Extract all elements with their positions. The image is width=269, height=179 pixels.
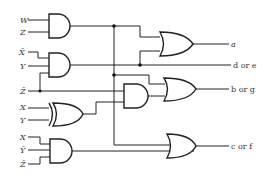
- input-wires: [28, 20, 124, 164]
- input-label-y2: Y: [20, 116, 26, 125]
- input-label-w: W: [20, 16, 29, 25]
- and-gate-2: [49, 53, 70, 77]
- or-gate-a: [160, 32, 193, 56]
- input-label-xbar: X̄: [18, 48, 25, 57]
- xor-gate: [49, 103, 83, 126]
- input-label-z: Z: [19, 28, 26, 37]
- input-label-zbar: Z̄: [19, 87, 26, 96]
- and-gate-3: [124, 84, 148, 108]
- input-label-ybar: Ȳ: [20, 146, 26, 155]
- or-gate-c-or-f: [167, 134, 196, 158]
- input-label-zbar2: Z̄: [19, 160, 26, 169]
- output-label-a: a: [231, 40, 236, 49]
- junction-dot: [112, 24, 116, 28]
- output-label-c-or-f: c or f: [231, 142, 253, 151]
- junction-dot: [138, 63, 142, 67]
- input-label-x: X: [19, 103, 26, 112]
- input-label-x2: X: [19, 133, 26, 142]
- input-label-y: Y: [20, 62, 26, 71]
- junction-dot: [38, 89, 41, 92]
- and-gate-1: [49, 14, 70, 38]
- output-label-d-or-e: d or e: [233, 61, 257, 70]
- junction-dot: [112, 73, 116, 77]
- output-label-b-or-g: b or g: [231, 85, 255, 94]
- logic-circuit-diagram: W Z X̄ Y Z̄ X Y X Ȳ Z̄: [0, 0, 269, 179]
- and-gate-4: [50, 139, 72, 163]
- or-gate-b-or-g: [164, 78, 196, 101]
